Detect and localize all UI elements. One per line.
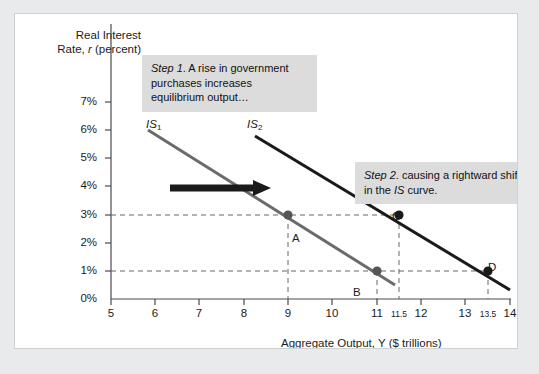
curve-label-is2-subscript: 2 <box>258 123 262 132</box>
y-tick-label-6: 6% <box>67 123 97 135</box>
curve-is1 <box>148 130 395 285</box>
x-tick-label-10: 10 <box>317 307 347 319</box>
curve-label-is2: IS2 <box>247 118 262 130</box>
figure-container: Real InterestRate, r (percent) <box>0 0 539 374</box>
callout-step1-label: Step 1 <box>151 62 183 74</box>
y-tick-label-2: 2% <box>67 236 97 248</box>
chart-panel: Real InterestRate, r (percent) <box>14 13 518 349</box>
point-label-b: B <box>353 286 361 298</box>
x-tick-label-8: 8 <box>229 307 259 319</box>
callout-step2-label: Step 2 <box>364 169 396 181</box>
curve-label-is1-text: IS <box>146 118 157 130</box>
y-tick-label-1: 1% <box>67 264 97 276</box>
y-tick-label-5: 5% <box>67 151 97 163</box>
shift-arrow-icon <box>170 180 271 196</box>
y-tick-label-4: 4% <box>67 179 97 191</box>
data-point-a <box>283 210 292 219</box>
curve-is2 <box>255 136 510 290</box>
y-tick-label-7: 7% <box>67 95 97 107</box>
curve-label-is1: IS1 <box>146 118 161 130</box>
x-tick-label-14: 14 <box>495 307 518 319</box>
callout-step2-text-after: curve. <box>404 184 437 196</box>
callout-step1: Step 1. A rise in government purchases i… <box>142 55 317 112</box>
callout-step2: Step 2. causing a rightward shift in the… <box>355 162 518 204</box>
point-label-a: A <box>292 232 300 244</box>
curve-label-is1-subscript: 1 <box>157 123 161 132</box>
y-tick-label-0: 0% <box>67 292 97 304</box>
y-tick-label-3: 3% <box>67 208 97 220</box>
point-label-d: D <box>488 261 496 273</box>
x-tick-label-9: 9 <box>273 307 303 319</box>
x-tick-label-6: 6 <box>140 307 170 319</box>
curve-label-is2-text: IS <box>247 118 258 130</box>
data-point-b <box>372 266 381 275</box>
x-tick-label-7: 7 <box>184 307 214 319</box>
x-tick-label-5: 5 <box>96 307 126 319</box>
x-axis-title: Aggregate Output, Y ($ trillions) <box>281 336 442 349</box>
x-tick-label-12: 12 <box>406 307 436 319</box>
callout-step2-emphasis: IS <box>394 184 404 196</box>
point-label-c: C <box>392 210 400 222</box>
dashed-guides <box>111 215 488 299</box>
